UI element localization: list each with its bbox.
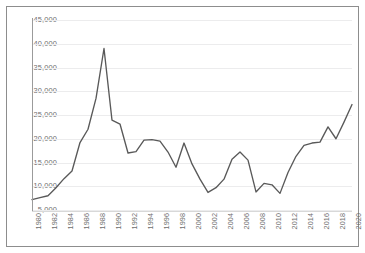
x-axis-labels: 1980198219841986198819901992199419961998… bbox=[32, 213, 352, 247]
y-axis-line bbox=[32, 18, 33, 212]
x-axis-tick-label: 1996 bbox=[163, 213, 170, 229]
x-axis-tick-label: 2000 bbox=[195, 213, 202, 229]
x-axis-line bbox=[32, 211, 352, 212]
x-axis-tick-label: 2006 bbox=[243, 213, 250, 229]
chart-frame: 5,00010,00015,00020,00025,00030,00035,00… bbox=[6, 6, 359, 247]
x-axis-tick-label: 1982 bbox=[51, 213, 58, 229]
data-series-line bbox=[32, 20, 352, 210]
x-axis-tick-label: 1990 bbox=[115, 213, 122, 229]
x-axis-tick-label: 2002 bbox=[211, 213, 218, 229]
x-axis-tick-label: 2020 bbox=[355, 213, 362, 229]
x-axis-tick-label: 1980 bbox=[35, 213, 42, 229]
x-axis-tick-label: 1994 bbox=[147, 213, 154, 229]
x-axis-tick-label: 1992 bbox=[131, 213, 138, 229]
x-axis-tick-label: 2010 bbox=[275, 213, 282, 229]
x-axis-tick-label: 1984 bbox=[67, 213, 74, 229]
x-axis-tick-label: 1998 bbox=[179, 213, 186, 229]
x-axis-tick-label: 2014 bbox=[307, 213, 314, 229]
plot-area bbox=[32, 20, 352, 210]
x-axis-tick-label: 2016 bbox=[323, 213, 330, 229]
x-axis-tick-label: 2004 bbox=[227, 213, 234, 229]
x-axis-tick-label: 1988 bbox=[99, 213, 106, 229]
x-axis-tick-label: 2018 bbox=[339, 213, 346, 229]
line-chart: 5,00010,00015,00020,00025,00030,00035,00… bbox=[7, 7, 360, 248]
x-axis-tick-label: 2012 bbox=[291, 213, 298, 229]
x-axis-tick-label: 1986 bbox=[83, 213, 90, 229]
x-axis-tick-label: 2008 bbox=[259, 213, 266, 229]
